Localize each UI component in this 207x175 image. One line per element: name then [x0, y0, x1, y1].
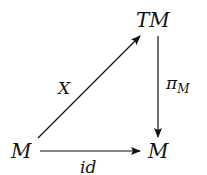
arrow-x	[38, 36, 140, 138]
label-id: id	[80, 157, 96, 175]
label-pi: πM	[166, 73, 189, 95]
node-tm: TM	[136, 10, 170, 30]
label-pi-sub: M	[177, 82, 189, 96]
label-x: X	[58, 78, 70, 98]
node-m-right: M	[148, 141, 168, 161]
node-m-left: M	[11, 141, 31, 161]
label-pi-main: π	[166, 73, 177, 93]
